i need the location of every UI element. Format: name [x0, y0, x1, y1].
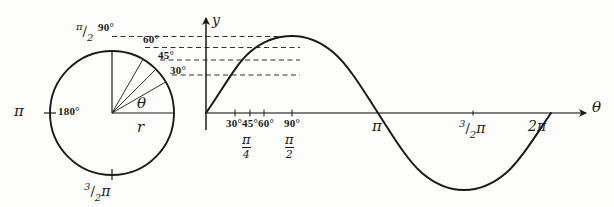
pi-over-2-denominator: 2 — [87, 32, 93, 43]
x-axis-label: θ — [592, 100, 601, 115]
x-label-30deg: 30° — [226, 118, 242, 129]
x-label-45deg: 45° — [242, 118, 258, 129]
circle-label-180deg: 180° — [58, 106, 80, 117]
y-axis-label: y — [212, 13, 220, 27]
theta-angle-label: θ — [137, 96, 146, 111]
radius-label: r — [137, 120, 144, 135]
two-pi-coefficient: 2 — [528, 118, 537, 134]
x-label-pi: π — [372, 119, 382, 134]
pi-over-2-denominator-axis: 2 — [286, 148, 293, 160]
pi-over-2-numerator-axis: π — [285, 133, 294, 147]
pi-over-4-numerator: π — [242, 133, 251, 147]
circle-label-3pi-over-2: 3/2π — [84, 182, 110, 203]
x-label-pi-over-2: π 2 — [284, 133, 295, 160]
circle-label-90deg: 90° — [98, 22, 114, 33]
ray-label-45deg: 45° — [158, 50, 174, 61]
x-label-90deg: 90° — [284, 118, 300, 129]
sine-curve-figure: π/2 90° π 180° 3/2π 60° 45° 30° θ r y θ … — [0, 0, 614, 207]
circle-label-pi-over-2: π/2 — [76, 22, 93, 43]
pi-over-4-denominator: 4 — [243, 148, 250, 160]
ray-label-30deg: 30° — [170, 65, 186, 76]
x-label-2pi: 2π — [528, 119, 546, 133]
three-halves-pi-symbol-axis: π — [476, 120, 485, 136]
x-label-60deg: 60° — [258, 118, 274, 129]
x-label-pi-over-4: π 4 — [241, 133, 252, 160]
two-pi-symbol: π — [537, 118, 546, 134]
x-label-3pi-over-2: 3/2π — [459, 119, 485, 140]
ray-label-60deg: 60° — [143, 34, 159, 45]
pi-over-2-numerator: π — [76, 21, 83, 32]
circle-label-pi: π — [14, 104, 24, 119]
three-halves-pi-symbol: π — [101, 183, 110, 199]
